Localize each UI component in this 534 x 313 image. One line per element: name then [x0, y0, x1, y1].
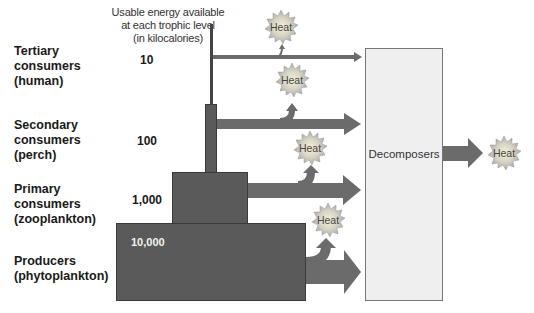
- tertiary-flow-arrow: [213, 44, 362, 62]
- svg-text:Heat: Heat: [299, 142, 321, 154]
- heat-icon: Heat: [294, 131, 327, 165]
- heat-icon: Heat: [276, 63, 309, 97]
- secondary-flow-arrow: [217, 103, 361, 135]
- svg-text:Heat: Heat: [281, 74, 303, 86]
- energy-flow-arrows: Heat Heat Heat Heat Heat: [0, 0, 534, 313]
- heat-icon: Heat: [265, 10, 298, 44]
- heat-icon: Heat: [312, 203, 345, 237]
- svg-text:Heat: Heat: [270, 21, 292, 33]
- heat-icon: Heat: [488, 136, 521, 170]
- producers-flow-arrow: [306, 238, 361, 294]
- svg-text:Heat: Heat: [493, 147, 515, 159]
- decomposers-flow-arrow: [443, 138, 483, 168]
- primary-flow-arrow: [248, 165, 361, 205]
- svg-text:Heat: Heat: [317, 214, 339, 226]
